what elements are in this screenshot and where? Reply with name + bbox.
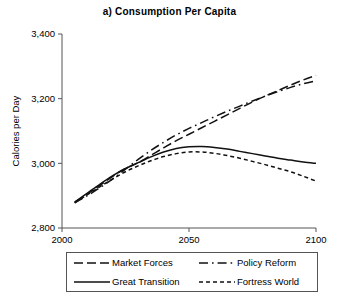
figure-container: a) Consumption Per Capita 2,8003,0003,20…	[0, 0, 339, 308]
series-line-policy-reform	[75, 81, 316, 203]
legend-swatch-great-transition	[73, 277, 111, 287]
series-line-great-transition	[75, 146, 316, 202]
legend-item-fortress-world[interactable]: Fortress World	[192, 272, 317, 291]
x-tick-group: 200020502100	[51, 228, 326, 245]
x-tick-label: 2000	[51, 234, 72, 245]
series-line-market-forces	[75, 75, 316, 202]
legend-label-policy-reform: Policy Reform	[237, 257, 296, 268]
y-tick-label: 3,200	[31, 93, 55, 104]
legend-item-market-forces[interactable]: Market Forces	[67, 253, 192, 272]
series-group	[75, 75, 316, 202]
legend-swatch-policy-reform	[198, 258, 236, 268]
legend-swatch-fortress-world	[198, 277, 236, 287]
y-tick-group: 2,8003,0003,2003,400	[31, 28, 62, 233]
legend-label-great-transition: Great Transition	[112, 276, 180, 287]
x-tick-label: 2050	[178, 234, 199, 245]
legend-label-fortress-world: Fortress World	[237, 276, 299, 287]
legend-label-market-forces: Market Forces	[112, 257, 173, 268]
y-axis-title: Calories per Day	[10, 95, 21, 166]
legend-swatch-market-forces	[73, 258, 111, 268]
y-tick-label: 3,000	[31, 158, 55, 169]
legend-item-great-transition[interactable]: Great Transition	[67, 272, 192, 291]
y-tick-label: 2,800	[31, 222, 55, 233]
chart-legend: Market Forces Policy Reform Great Transi…	[66, 252, 318, 292]
y-tick-label: 3,400	[31, 28, 55, 39]
x-tick-label: 2100	[305, 234, 326, 245]
legend-item-policy-reform[interactable]: Policy Reform	[192, 253, 317, 272]
